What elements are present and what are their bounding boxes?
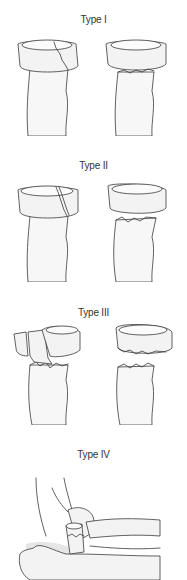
type-ii-right-bone (108, 184, 166, 282)
type-ii-illustration (0, 182, 187, 282)
type-iii-left-bone (14, 326, 80, 425)
type-ii-label: Type II (0, 160, 187, 171)
type-iii-label: Type III (0, 307, 187, 318)
type-iv-elbow-dislocation (19, 478, 160, 580)
type-iv-illustration (0, 458, 187, 580)
type-ii-left-bone (18, 186, 78, 282)
type-i-left-bone (18, 40, 78, 136)
type-iii-right-bone (116, 325, 172, 425)
type-i-right-bone (106, 40, 166, 136)
type-i-illustration (0, 36, 187, 136)
type-i-label: Type I (0, 14, 187, 25)
type-iii-illustration (0, 320, 187, 425)
